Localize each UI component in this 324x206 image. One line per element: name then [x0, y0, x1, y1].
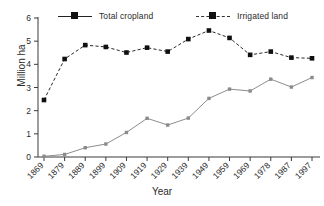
series-line-irrigated-land: [44, 78, 312, 157]
y-tick-label: 6: [26, 13, 31, 23]
x-tick-label: 1919: [128, 160, 149, 181]
data-point-irrigated-land: [228, 87, 231, 90]
y-tick-label: 1: [26, 129, 31, 139]
plot-area: 0123456186918791889189919091919192919391…: [0, 0, 324, 206]
x-tick-label: 1939: [169, 160, 190, 181]
data-point-total-cropland: [227, 36, 232, 41]
data-point-irrigated-land: [104, 142, 107, 145]
series-line-total-cropland: [44, 31, 312, 101]
x-tick-label: 1929: [149, 160, 170, 181]
data-point-irrigated-land: [63, 153, 66, 156]
x-tick-label: 1949: [190, 160, 211, 181]
x-tick-label: 1879: [46, 160, 67, 181]
x-tick-label: 1869: [25, 160, 46, 181]
series-group: [42, 28, 315, 158]
x-tick-label: 1978: [252, 160, 273, 181]
data-point-total-cropland: [42, 98, 47, 103]
chart-container: Total cropland Irrigated land Million ha…: [0, 0, 324, 206]
y-tick-label: 3: [26, 83, 31, 93]
x-tick-label: 1889: [66, 160, 87, 181]
data-point-total-cropland: [62, 57, 67, 62]
data-point-total-cropland: [289, 55, 294, 60]
data-point-irrigated-land: [84, 146, 87, 149]
data-point-total-cropland: [165, 49, 170, 54]
x-tick-label: 1959: [211, 160, 232, 181]
data-point-total-cropland: [124, 50, 129, 55]
data-point-total-cropland: [268, 49, 273, 54]
data-point-irrigated-land: [187, 116, 190, 119]
y-tick-label: 4: [26, 59, 31, 69]
data-point-irrigated-land: [290, 85, 293, 88]
data-point-irrigated-land: [145, 117, 148, 120]
x-tick-label: 1899: [87, 160, 108, 181]
x-tick-label: 1969: [231, 160, 252, 181]
data-point-total-cropland: [145, 45, 150, 50]
data-point-total-cropland: [186, 37, 191, 42]
y-tick-label: 0: [26, 152, 31, 162]
data-point-irrigated-land: [269, 77, 272, 80]
data-point-total-cropland: [83, 43, 88, 48]
data-point-irrigated-land: [248, 89, 251, 92]
chart-svg: 0123456186918791889189919091919192919391…: [0, 0, 324, 206]
data-point-total-cropland: [207, 28, 212, 33]
data-point-total-cropland: [248, 53, 253, 58]
y-tick-label: 5: [26, 36, 31, 46]
data-point-irrigated-land: [207, 97, 210, 100]
data-point-irrigated-land: [125, 131, 128, 134]
y-tick-label: 2: [26, 106, 31, 116]
x-tick-label: 1987: [272, 160, 293, 181]
axes-group: 0123456186918791889189919091919192919391…: [25, 13, 320, 181]
x-tick-label: 1909: [107, 160, 128, 181]
data-point-total-cropland: [310, 56, 315, 61]
x-tick-label: 1997: [293, 160, 314, 181]
data-point-total-cropland: [104, 45, 109, 50]
data-point-irrigated-land: [166, 123, 169, 126]
data-point-irrigated-land: [310, 76, 313, 79]
data-point-irrigated-land: [42, 155, 45, 158]
